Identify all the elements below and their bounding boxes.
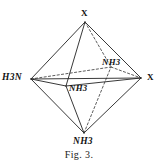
figure-caption: Fig. 3. bbox=[0, 149, 158, 160]
edge-bottom-right bbox=[84, 78, 141, 133]
edge-bottom-front bbox=[66, 86, 84, 133]
edge-bottom-back bbox=[84, 67, 111, 133]
vertex-label-front: NH3 bbox=[69, 84, 88, 93]
vertex-label-right: X bbox=[147, 73, 154, 82]
figure-container: X H3N X NH3 NH3 NH3 Fig. 3. bbox=[0, 0, 158, 162]
edge-back-right bbox=[111, 67, 141, 78]
vertex-label-back: NH3 bbox=[102, 58, 121, 67]
vertex-label-top: X bbox=[81, 9, 88, 18]
vertex-label-bottom: NH3 bbox=[73, 137, 93, 147]
edge-left-right-axis bbox=[31, 78, 141, 79]
vertex-label-left: H3N bbox=[2, 73, 22, 83]
